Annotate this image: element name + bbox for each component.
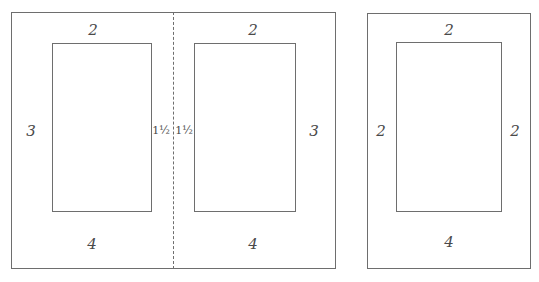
right-page-bottom-margin: 4 (248, 237, 258, 252)
single-page-left-margin: 2 (376, 124, 386, 139)
single-page-text-block (396, 42, 502, 212)
right-page-top-margin: 2 (248, 23, 258, 38)
left-page-bottom-margin: 4 (87, 237, 97, 252)
left-page-top-margin: 2 (88, 23, 98, 38)
right-page-inner-margin: 1½ (175, 125, 193, 136)
single-page-top-margin: 2 (444, 23, 454, 38)
single-page-bottom-margin: 4 (444, 235, 454, 250)
right-page-text-block (194, 43, 296, 212)
left-page-outer-margin: 3 (26, 124, 36, 139)
single-page-right-margin: 2 (510, 124, 520, 139)
left-page-inner-margin: 1½ (152, 125, 170, 136)
right-page-outer-margin: 3 (309, 124, 319, 139)
left-page-text-block (52, 43, 152, 212)
fold-line (173, 12, 174, 269)
